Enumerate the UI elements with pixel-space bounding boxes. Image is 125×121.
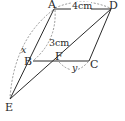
- label-point-a: A: [47, 0, 57, 11]
- segment-ae: [10, 9, 54, 99]
- label-ad-length: 4cm: [72, 0, 92, 11]
- label-point-b: B: [24, 55, 32, 68]
- segment-dc: [89, 9, 111, 61]
- label-ae-x: x: [21, 44, 27, 55]
- label-point-d: D: [109, 0, 118, 12]
- label-point-e: E: [5, 101, 13, 114]
- label-ab-length: 3cm: [49, 37, 69, 48]
- label-fc-y: y: [71, 62, 78, 73]
- label-point-c: C: [90, 58, 98, 71]
- geometry-diagram: A D B F C E 4cm 3cm x y: [0, 0, 125, 121]
- label-point-f: F: [55, 50, 63, 63]
